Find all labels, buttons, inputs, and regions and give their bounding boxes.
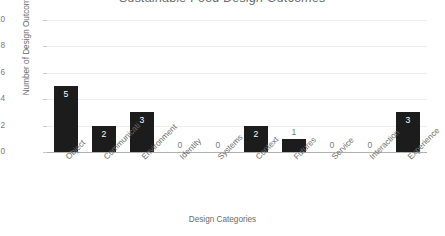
y-tick-mark [43,99,47,100]
bar-slot: 5 [54,20,78,152]
bar-slot: 0 [206,20,230,152]
bar-slot: 1 [282,20,306,152]
bar-value-label: 2 [92,130,116,139]
y-tick-mark [43,152,47,153]
y-axis-title: Number of Design Outcomes [22,0,31,118]
y-tick-label: 8 [0,42,5,50]
bar-value-label: 1 [282,128,306,137]
chart-title: Sustainable Food Design Outcomes [0,0,445,5]
bar-value-label: 2 [244,130,268,139]
y-tick-label: 4 [0,95,5,103]
y-tick-label: 2 [0,122,5,130]
bar-slot: 2 [244,20,268,152]
y-tick-mark [43,73,47,74]
y-tick-label: 10 [0,16,5,24]
bar-chart: Sustainable Food Design Outcomes Number … [0,0,445,236]
bar-value-label: 3 [396,116,420,125]
bar-slot: 0 [320,20,344,152]
x-axis-title: Design Categories [0,215,445,224]
y-tick-mark [43,20,47,21]
y-tick-mark [43,46,47,47]
y-tick-label: 0 [0,148,5,156]
bar-slot: 0 [358,20,382,152]
y-tick-mark [43,126,47,127]
bar-slot: 2 [92,20,116,152]
y-tick-label: 6 [0,69,5,77]
bar-value-label: 5 [54,90,78,99]
